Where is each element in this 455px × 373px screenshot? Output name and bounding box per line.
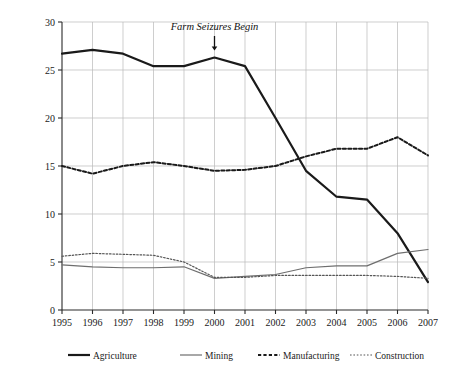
x-tick-label: 2005	[357, 317, 377, 328]
x-axis-ticks: 1995199619971998199920002001200220032004…	[52, 310, 438, 328]
y-tick-label: 5	[50, 257, 55, 268]
x-tick-label: 1995	[52, 317, 72, 328]
x-tick-label: 2000	[205, 317, 225, 328]
x-tick-label: 2004	[327, 317, 347, 328]
x-tick-label: 2007	[418, 317, 438, 328]
x-tick-label: 1999	[174, 317, 194, 328]
line-chart-plot: 051015202530 199519961997199819992000200…	[0, 0, 455, 373]
x-tick-label: 2002	[266, 317, 286, 328]
y-axis-ticks: 051015202530	[45, 17, 62, 316]
y-tick-label: 30	[45, 17, 55, 28]
legend-label-mining: Mining	[205, 351, 233, 361]
y-tick-label: 10	[45, 209, 55, 220]
x-tick-label: 2006	[388, 317, 408, 328]
y-tick-label: 20	[45, 113, 55, 124]
y-tick-label: 15	[45, 161, 55, 172]
x-tick-label: 2001	[235, 317, 255, 328]
chart-legend: AgricultureMiningManufacturingConstructi…	[68, 351, 424, 361]
annotation-arrow-head	[212, 47, 218, 51]
legend-label-agriculture: Agriculture	[93, 351, 137, 361]
y-tick-label: 0	[50, 305, 55, 316]
x-tick-label: 1997	[113, 317, 133, 328]
chart-figure: Formal National Employment (%) 051015202…	[0, 0, 455, 373]
x-tick-label: 1998	[144, 317, 164, 328]
x-tick-label: 1996	[83, 317, 103, 328]
legend-label-construction: Construction	[375, 351, 424, 361]
x-tick-label: 2003	[296, 317, 316, 328]
legend-label-manufacturing: Manufacturing	[283, 351, 340, 361]
y-tick-label: 25	[45, 65, 55, 76]
annotation-label: Farm Seizures Begin	[170, 21, 259, 32]
